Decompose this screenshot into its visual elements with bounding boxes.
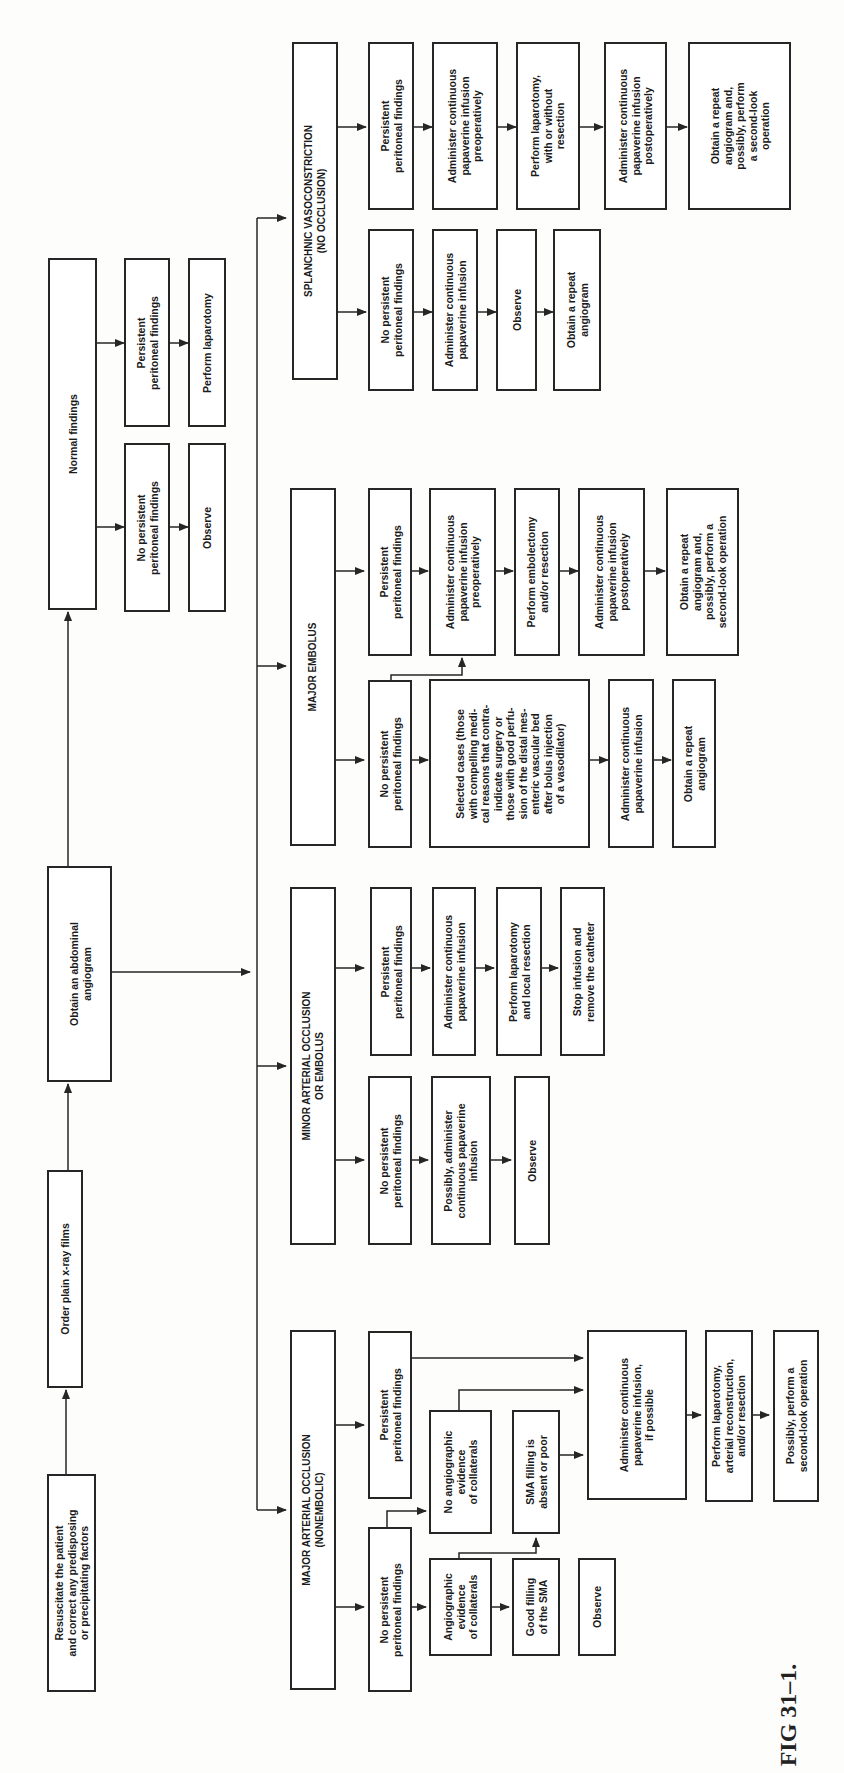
mo-second-look-text: Possibly, perform a second-look operatio… (784, 1360, 809, 1473)
me-repeat-second-look-text: Obtain a repeat angiogram and, possibly,… (678, 516, 728, 629)
normal-laparotomy-box: Perform laparotomy (188, 258, 226, 427)
mo-laparotomy-text: Perform laparotomy, arterial reconstruct… (710, 1359, 748, 1473)
sp-papaverine-postop-text: Administer continuous papaverine infusio… (617, 69, 655, 183)
me-repeat-second-look-box: Obtain a repeat angiogram and, possibly,… (666, 488, 739, 656)
mo-sma-absent-text: SMA filling is absent or poor (524, 1435, 549, 1509)
mi-stop-infusion-text: Stop infusion and remove the catheter (570, 922, 595, 1022)
me-repeat-angiogram-text: Obtain a repeat angiogram (682, 725, 707, 801)
sp-no-persistent-box: No persistent peritoneal findings (368, 229, 414, 391)
sp-papaverine-text: Administer continuous papaverine infusio… (443, 253, 468, 367)
mi-no-persistent-text: No persistent peritoneal findings (378, 1114, 403, 1208)
mo-observe-text: Observe (591, 1586, 604, 1628)
sp-repeat-angiogram-box: Obtain a repeat angiogram (553, 229, 601, 391)
sp-repeat-angiogram-text: Obtain a repeat angiogram (565, 272, 590, 348)
me-repeat-angiogram-box: Obtain a repeat angiogram (672, 679, 716, 848)
normal-persistent-box: Persistent peritoneal findings (124, 258, 170, 427)
me-papaverine-box: Administer continuous papaverine infusio… (608, 679, 654, 848)
sp-laparotomy-text: Perform laparotomy, with or without rese… (529, 75, 567, 177)
mo-no-angio-evidence-box: No angiographic evidence of collaterals (429, 1410, 492, 1534)
mo-papaverine-text: Administer continuous papaverine infusio… (618, 1358, 656, 1472)
me-papaverine-preop-text: Administer continuous papaverine infusio… (444, 515, 482, 629)
mo-angio-evidence-text: Angiographic evidence of collaterals (442, 1573, 480, 1641)
me-papaverine-postop-box: Administer continuous papaverine infusio… (578, 488, 645, 656)
mo-good-filling-text: Good filling of the SMA (524, 1578, 549, 1636)
mo-no-angio-evidence-text: No angiographic evidence of collaterals (442, 1431, 480, 1514)
normal-observe-box: Observe (188, 443, 226, 612)
mi-possibly-papaverine-box: Possibly, administer continuous papaveri… (431, 1076, 491, 1245)
normal-laparotomy-text: Perform laparotomy (201, 293, 214, 393)
mi-laparotomy-box: Perform laparotomy and local resection (496, 887, 542, 1056)
me-papaverine-postop-text: Administer continuous papaverine infusio… (593, 515, 631, 629)
order-xray-text: Order plain x-ray films (59, 1223, 72, 1334)
normal-no-persistent-box: No persistent peritoneal findings (124, 443, 170, 612)
normal-findings-box: Normal findings (48, 258, 97, 610)
mi-laparotomy-text: Perform laparotomy and local resection (507, 922, 532, 1022)
mi-papaverine-text: Administer continuous papaverine infusio… (442, 914, 467, 1028)
me-selected-cases-box: Selected cases (those with compelling me… (429, 679, 590, 848)
me-papaverine-text: Administer continuous papaverine infusio… (619, 706, 644, 820)
sp-papaverine-box: Administer continuous papaverine infusio… (432, 229, 478, 391)
mi-possibly-papaverine-text: Possibly, administer continuous papaveri… (442, 1103, 480, 1218)
mi-papaverine-box: Administer continuous papaverine infusio… (432, 887, 476, 1056)
sp-laparotomy-box: Perform laparotomy, with or without rese… (516, 42, 580, 210)
mo-persistent-text: Persistent peritoneal findings (378, 1368, 403, 1462)
splanchnic-title: SPLANCHNIC VASOCONSTRICTION (NO OCCLUSIO… (303, 125, 328, 297)
me-papaverine-preop-box: Administer continuous papaverine infusio… (429, 488, 496, 656)
sp-observe-text: Observe (510, 289, 523, 331)
order-xray-box: Order plain x-ray films (47, 1170, 83, 1388)
resuscitate-box: Resuscitate the patient and correct any … (47, 1474, 96, 1692)
mo-observe-box: Observe (578, 1558, 616, 1656)
mi-persistent-box: Persistent peritoneal findings (370, 887, 412, 1056)
sp-persistent-text: Persistent peritoneal findings (379, 79, 404, 173)
mi-no-persistent-box: No persistent peritoneal findings (368, 1076, 412, 1245)
splanchnic-header: SPLANCHNIC VASOCONSTRICTION (NO OCCLUSIO… (292, 42, 338, 380)
normal-findings-text: Normal findings (66, 394, 79, 474)
sp-papaverine-preop-box: Administer continuous papaverine infusio… (432, 42, 498, 210)
mi-persistent-text: Persistent peritoneal findings (379, 925, 404, 1019)
mi-stop-infusion-box: Stop infusion and remove the catheter (560, 887, 605, 1056)
me-selected-cases-text: Selected cases (those with compelling me… (453, 704, 566, 822)
me-no-persistent-text: No persistent peritoneal findings (378, 717, 403, 811)
me-embolectomy-box: Perform embolectomy and/or resection (514, 488, 560, 656)
minor-occlusion-header: MINOR ARTERIAL OCCLUSION OR EMBOLUS (290, 887, 336, 1245)
me-no-persistent-box: No persistent peritoneal findings (368, 680, 412, 848)
sp-repeat-second-look-box: Obtain a repeat angiogram and, possibly,… (688, 42, 791, 210)
mo-good-filling-box: Good filling of the SMA (512, 1558, 560, 1656)
resuscitate-text: Resuscitate the patient and correct any … (53, 1509, 91, 1656)
major-occlusion-title: MAJOR ARTERIAL OCCLUSION (NONEMBOLIC) (301, 1434, 326, 1586)
obtain-angiogram-box: Obtain an abdominal angiogram (47, 866, 112, 1082)
normal-observe-text: Observe (201, 506, 214, 548)
mi-observe-text: Observe (526, 1139, 539, 1181)
mo-no-persistent-box: No persistent peritoneal findings (368, 1527, 412, 1692)
mo-angio-evidence-box: Angiographic evidence of collaterals (429, 1558, 492, 1656)
mo-second-look-box: Possibly, perform a second-look operatio… (773, 1330, 819, 1502)
sp-no-persistent-text: No persistent peritoneal findings (379, 263, 404, 357)
normal-persistent-text: Persistent peritoneal findings (135, 296, 160, 390)
major-embolus-header: MAJOR EMBOLUS (290, 488, 336, 846)
sp-papaverine-postop-box: Administer continuous papaverine infusio… (604, 42, 667, 210)
normal-no-persistent-text: No persistent peritoneal findings (135, 481, 160, 575)
mo-laparotomy-box: Perform laparotomy, arterial reconstruct… (705, 1330, 753, 1502)
minor-occlusion-title: MINOR ARTERIAL OCCLUSION OR EMBOLUS (301, 992, 326, 1141)
mo-sma-absent-box: SMA filling is absent or poor (512, 1410, 560, 1534)
figure-caption: FIG 31–1. (775, 1664, 802, 1767)
sp-papaverine-preop-text: Administer continuous papaverine infusio… (446, 69, 484, 183)
obtain-angiogram-text: Obtain an abdominal angiogram (67, 922, 92, 1026)
major-embolus-title: MAJOR EMBOLUS (307, 623, 320, 712)
mo-no-persistent-text: No persistent peritoneal findings (378, 1563, 403, 1657)
me-persistent-text: Persistent peritoneal findings (378, 525, 403, 619)
mo-papaverine-box: Administer continuous papaverine infusio… (587, 1330, 687, 1500)
sp-persistent-box: Persistent peritoneal findings (368, 42, 414, 210)
mo-persistent-box: Persistent peritoneal findings (368, 1331, 412, 1499)
sp-repeat-second-look-text: Obtain a repeat angiogram and, possibly,… (708, 82, 771, 169)
me-embolectomy-text: Perform embolectomy and/or resection (525, 517, 550, 628)
major-occlusion-header: MAJOR ARTERIAL OCCLUSION (NONEMBOLIC) (290, 1330, 336, 1690)
mi-observe-box: Observe (514, 1076, 550, 1245)
sp-observe-box: Observe (496, 229, 537, 391)
me-persistent-box: Persistent peritoneal findings (368, 488, 412, 656)
